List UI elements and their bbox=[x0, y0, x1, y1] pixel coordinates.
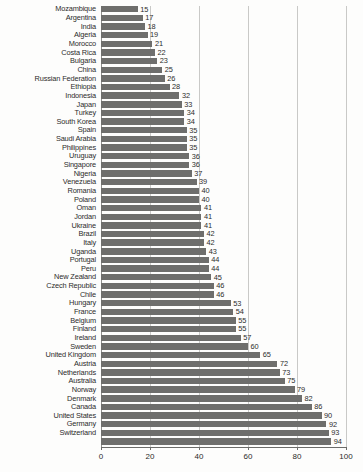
category-label: Canada bbox=[71, 403, 96, 411]
bar bbox=[101, 239, 204, 245]
bar-value-label: 55 bbox=[238, 324, 246, 333]
bar bbox=[101, 378, 285, 384]
bar-value-label: 21 bbox=[155, 39, 163, 48]
bar bbox=[101, 326, 236, 332]
bar-value-label: 79 bbox=[297, 385, 305, 394]
bar-value-label: 46 bbox=[216, 281, 224, 290]
x-tick-0 bbox=[101, 447, 102, 450]
bar-value-label: 86 bbox=[314, 402, 322, 411]
bar bbox=[101, 170, 192, 176]
bar-row: 21 bbox=[101, 41, 346, 50]
bar-value-label: 23 bbox=[160, 56, 168, 65]
bar-value-label: 19 bbox=[150, 30, 158, 39]
bar-value-label: 43 bbox=[209, 247, 217, 256]
bar-value-label: 60 bbox=[251, 342, 259, 351]
category-label: Jordan bbox=[74, 213, 96, 221]
bar-row: 23 bbox=[101, 58, 346, 67]
bar-value-label: 17 bbox=[145, 13, 153, 22]
bar bbox=[101, 127, 187, 133]
category-label: Indonesia bbox=[65, 92, 96, 100]
bar-row: 25 bbox=[101, 67, 346, 76]
bar-value-label: 37 bbox=[194, 169, 202, 178]
category-label: Switzerland bbox=[59, 429, 96, 437]
bar-row: 41 bbox=[101, 222, 346, 231]
bar-value-label: 15 bbox=[140, 5, 148, 14]
bar-row: 65 bbox=[101, 352, 346, 361]
bar-row: 57 bbox=[101, 335, 346, 344]
bar-row: 92 bbox=[101, 421, 346, 430]
bar-row: 19 bbox=[101, 32, 346, 41]
x-tick-60 bbox=[248, 447, 249, 450]
bar-row: 82 bbox=[101, 395, 346, 404]
bar bbox=[101, 361, 277, 367]
bar-row: 46 bbox=[101, 291, 346, 300]
bar bbox=[101, 32, 148, 38]
category-label: Saudi Arabia bbox=[56, 135, 96, 143]
bar-value-label: 41 bbox=[204, 203, 212, 212]
category-label: Austria bbox=[74, 360, 96, 368]
bar-value-label: 54 bbox=[236, 307, 244, 316]
x-tick-80 bbox=[297, 447, 298, 450]
x-tick-100 bbox=[346, 447, 347, 450]
plot-area: 1517181921222325262832333434353535363637… bbox=[101, 6, 346, 447]
bar-value-label: 32 bbox=[182, 91, 190, 100]
bar-value-label: 82 bbox=[304, 394, 312, 403]
category-label: Morocco bbox=[69, 40, 96, 48]
bar-row: 41 bbox=[101, 205, 346, 214]
bar-row: 44 bbox=[101, 257, 346, 266]
bar-row: 33 bbox=[101, 101, 346, 110]
bar-value-label: 35 bbox=[189, 143, 197, 152]
bar-row: 44 bbox=[101, 265, 346, 274]
x-tick-40 bbox=[199, 447, 200, 450]
bar-row: 90 bbox=[101, 412, 346, 421]
bar bbox=[101, 430, 329, 436]
bar-row: 36 bbox=[101, 162, 346, 171]
bar bbox=[101, 222, 201, 228]
bar bbox=[101, 352, 260, 358]
bar bbox=[101, 317, 236, 323]
bar bbox=[101, 75, 165, 81]
category-label: Argentina bbox=[66, 14, 96, 22]
bar-row: 75 bbox=[101, 378, 346, 387]
bar bbox=[101, 6, 138, 12]
bar bbox=[101, 110, 184, 116]
bar-row: 72 bbox=[101, 361, 346, 370]
category-label: Turkey bbox=[75, 109, 96, 117]
bar-row: 35 bbox=[101, 144, 346, 153]
bar-value-label: 36 bbox=[192, 152, 200, 161]
bar bbox=[101, 67, 162, 73]
bar-value-label: 44 bbox=[211, 255, 219, 264]
bar-chart: 1517181921222325262832333434353535363637… bbox=[0, 0, 363, 472]
bar bbox=[101, 136, 187, 142]
bar bbox=[101, 205, 201, 211]
bar-row: 18 bbox=[101, 23, 346, 32]
bar-value-label: 75 bbox=[287, 376, 295, 385]
x-tick-20 bbox=[150, 447, 151, 450]
gridline-100 bbox=[346, 6, 347, 447]
category-label: Italy bbox=[83, 239, 96, 247]
bar-value-label: 34 bbox=[187, 108, 195, 117]
bar bbox=[101, 369, 280, 375]
bar bbox=[101, 92, 179, 98]
bar-value-label: 92 bbox=[329, 420, 337, 429]
bar bbox=[101, 265, 209, 271]
bar-value-label: 57 bbox=[243, 333, 251, 342]
bar bbox=[101, 162, 189, 168]
bar bbox=[101, 309, 233, 315]
bar bbox=[101, 153, 189, 159]
bar-row: 26 bbox=[101, 75, 346, 84]
bar-row: 22 bbox=[101, 49, 346, 58]
bar bbox=[101, 23, 145, 29]
bar bbox=[101, 15, 143, 21]
bar bbox=[101, 421, 326, 427]
bar bbox=[101, 300, 231, 306]
x-tick-label: 100 bbox=[339, 452, 352, 461]
x-tick-label: 20 bbox=[146, 452, 155, 461]
bar-row: 60 bbox=[101, 343, 346, 352]
bar bbox=[101, 58, 157, 64]
bar-row: 54 bbox=[101, 309, 346, 318]
bar-row: 35 bbox=[101, 127, 346, 136]
bar bbox=[101, 231, 204, 237]
bar-row: 42 bbox=[101, 239, 346, 248]
bar-row: 55 bbox=[101, 317, 346, 326]
